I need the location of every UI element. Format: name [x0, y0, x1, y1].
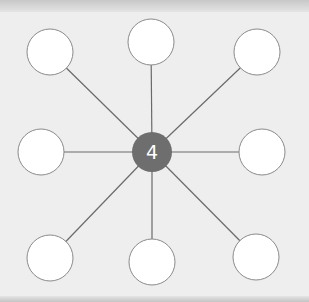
leaf-circle-bottom-right[interactable]: [233, 234, 279, 280]
leaf-circle-bottom-left[interactable]: [27, 235, 73, 281]
leaf-circle-bottom[interactable]: [129, 239, 175, 285]
spider-diagram: 4: [0, 0, 309, 302]
leaf-circle-top-right[interactable]: [234, 29, 280, 75]
center-node: 4: [132, 132, 172, 172]
leaf-circle-top[interactable]: [128, 19, 174, 65]
leaf-circle-right[interactable]: [239, 129, 285, 175]
leaf-circle-top-left[interactable]: [27, 29, 73, 75]
leaf-circle-left[interactable]: [18, 129, 64, 175]
center-label: 4: [146, 141, 158, 163]
